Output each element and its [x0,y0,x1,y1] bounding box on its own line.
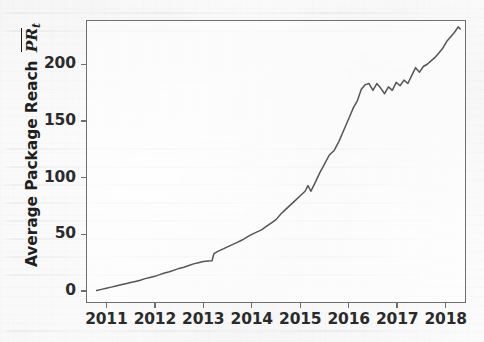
y-axis-title-subscript: t [30,23,43,28]
x-tick-mark-2013 [203,303,204,308]
y-tick-mark-150 [81,120,86,121]
figure-page: 050100150200 201120122013201420152016201… [0,0,484,342]
y-tick-mark-50 [81,234,86,235]
x-tick-mark-2017 [396,303,397,308]
y-tick-mark-0 [81,290,86,291]
x-tick-mark-2014 [251,303,252,308]
y-axis-title-symbol: PR [21,28,41,52]
x-tick-mark-2012 [154,303,155,308]
y-axis-title-text: Average Package Reach PRt [22,23,43,267]
x-tick-mark-2011 [106,303,107,308]
x-tick-mark-2018 [445,303,446,308]
x-tick-label-2018: 2018 [416,310,476,328]
y-axis-title: Average Package Reach PRt [20,0,44,290]
line-chart: 050100150200 201120122013201420152016201… [0,0,484,342]
x-tick-mark-2016 [348,303,349,308]
y-tick-mark-200 [81,64,86,65]
y-tick-mark-100 [81,177,86,178]
series-line-average-package-reach [97,27,461,291]
x-tick-mark-2015 [300,303,301,308]
y-axis-title-prefix: Average Package Reach [23,55,41,267]
